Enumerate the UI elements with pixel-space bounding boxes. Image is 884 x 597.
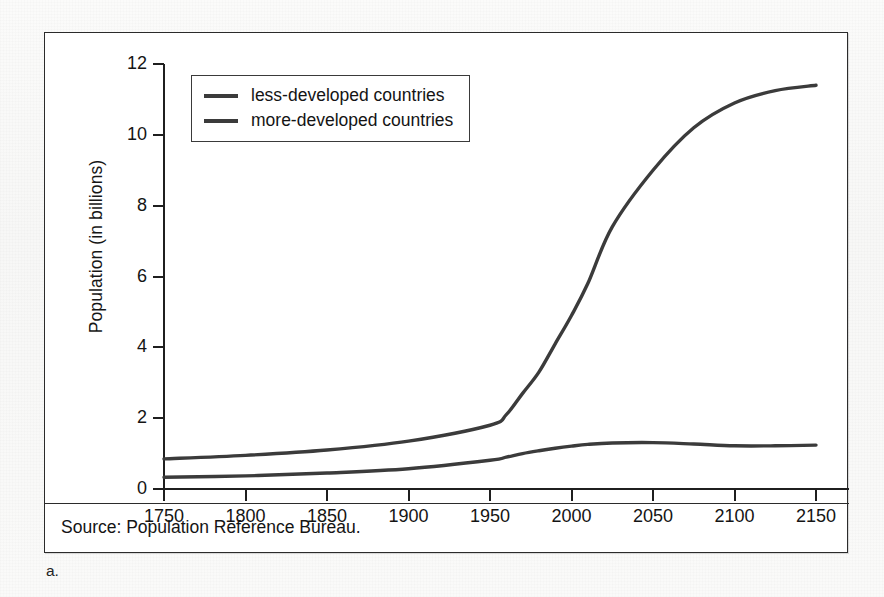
figure-box: Population (in billions) 024681012 17501… (44, 32, 848, 553)
y-tick-label-0: 0 (107, 478, 147, 499)
x-tick-label-2100: 2100 (700, 506, 770, 527)
x-tick-label-2050: 2050 (618, 506, 688, 527)
y-tick-label-6: 6 (107, 266, 147, 287)
x-tick-label-1900: 1900 (374, 506, 444, 527)
legend-line-swatch-icon (204, 94, 238, 98)
chart-plot-area: Population (in billions) 024681012 17501… (45, 33, 849, 503)
x-tick-label-2000: 2000 (537, 506, 607, 527)
series-line-more-developed-countries (164, 443, 816, 478)
legend-label-more-developed: more-developed countries (251, 110, 453, 131)
legend-label-less-developed: less-developed countries (251, 85, 445, 106)
source-divider (45, 503, 849, 504)
x-tick-label-1950: 1950 (455, 506, 525, 527)
legend-line-swatch-icon (204, 119, 238, 123)
legend-item-more-developed: more-developed countries (204, 108, 453, 133)
legend-item-less-developed: less-developed countries (204, 83, 453, 108)
y-tick-label-12: 12 (107, 53, 147, 74)
data-series-group (164, 85, 816, 477)
y-tick-label-10: 10 (107, 124, 147, 145)
y-tick-label-4: 4 (107, 336, 147, 357)
chart-legend: less-developed countries more-developed … (191, 75, 470, 142)
y-tick-label-8: 8 (107, 195, 147, 216)
source-attribution: Source: Population Reference Bureau. (61, 517, 361, 538)
figure-caption: a. (46, 562, 59, 580)
y-tick-label-2: 2 (107, 407, 147, 428)
x-tick-label-2150: 2150 (781, 506, 851, 527)
